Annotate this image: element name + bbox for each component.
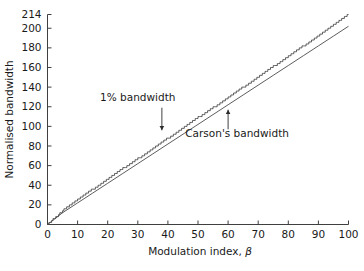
- y-tick-label: 120: [21, 100, 41, 112]
- y-axis-title: Normalised bandwidth: [3, 60, 15, 178]
- x-tick-label: 40: [161, 228, 174, 240]
- x-tick-label: 60: [221, 228, 234, 240]
- x-tick-label: 0: [44, 228, 51, 240]
- y-tick-label: 180: [21, 41, 41, 53]
- x-tick-label: 90: [312, 228, 325, 240]
- y-tick-label: 140: [21, 81, 41, 93]
- y-tick-label: 214: [21, 8, 41, 20]
- figure-container: 0204060801001201401601802002140102030405…: [0, 0, 364, 271]
- y-tick-label: 160: [21, 61, 41, 73]
- annotation-label-one-percent: 1% bandwidth: [100, 91, 175, 103]
- x-tick-label: 70: [252, 228, 265, 240]
- y-tick-label: 20: [28, 198, 41, 210]
- y-tick-label: 100: [21, 120, 41, 132]
- x-axis-title: Modulation index, β: [148, 245, 252, 257]
- annotation-arrowhead-one-percent: [160, 126, 165, 130]
- y-tick-label: 60: [28, 159, 41, 171]
- y-tick-label: 200: [21, 22, 41, 34]
- x-tick-label: 50: [191, 228, 204, 240]
- y-tick-label: 0: [35, 218, 42, 230]
- annotation-label-carsons: Carson's bandwidth: [185, 127, 289, 139]
- y-tick-label: 80: [28, 140, 41, 152]
- x-tick-label: 30: [131, 228, 144, 240]
- x-tick-label: 80: [282, 228, 295, 240]
- x-tick-label: 10: [71, 228, 84, 240]
- x-tick-label: 100: [338, 228, 358, 240]
- chart-canvas: 0204060801001201401601802002140102030405…: [0, 0, 364, 271]
- annotation-arrowhead-carsons: [226, 110, 231, 114]
- x-tick-label: 20: [101, 228, 114, 240]
- series-line-carson-s-bandwidth: [48, 26, 349, 224]
- y-tick-label: 40: [28, 179, 41, 191]
